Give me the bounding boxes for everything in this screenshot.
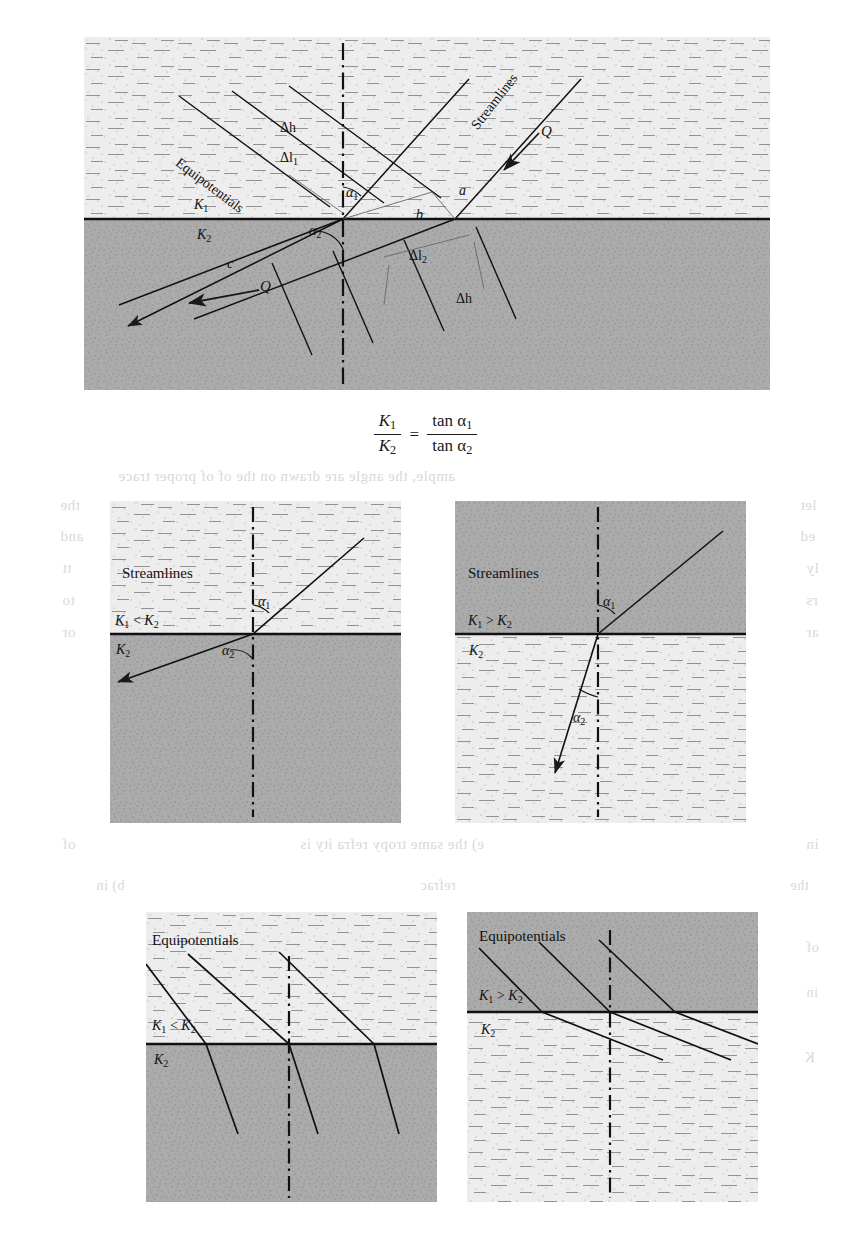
label-segment-c: c bbox=[227, 256, 233, 272]
panel-streamlines-k1-gt-k2: Streamlines K1 > K2 K2 α1 α2 bbox=[455, 501, 746, 823]
label-delta-l2: Δl2 bbox=[409, 248, 427, 265]
label-alpha2-main: α2 bbox=[309, 223, 321, 240]
figure-page: ample, the angle are drawn on the of of … bbox=[0, 0, 851, 1254]
panel-a-alpha1: α1 bbox=[258, 594, 270, 611]
bleed-through-text: ly bbox=[806, 560, 819, 577]
bleed-through-text: and bbox=[60, 528, 83, 545]
panel-c-condition: K1 < K2 bbox=[152, 1018, 196, 1035]
panel-c-k2-label: K2 bbox=[154, 1052, 168, 1069]
panel-equipotentials-k1-gt-k2: Equipotentials K1 > K2 K2 bbox=[467, 912, 758, 1202]
panel-b-title: Streamlines bbox=[468, 565, 539, 582]
panel-d-k2-label: K2 bbox=[481, 1022, 495, 1039]
panel-b-condition: K1 > K2 bbox=[468, 613, 512, 630]
label-delta-h-lower: Δh bbox=[456, 291, 472, 307]
bleed-through-text: in bbox=[806, 985, 818, 1001]
formula-equals-sign: = bbox=[405, 425, 423, 445]
label-q-upper: Q bbox=[541, 123, 552, 140]
panel-b-alpha2: α2 bbox=[573, 710, 585, 727]
bleed-through-text: ample, the angle are drawn on the of of … bbox=[118, 468, 455, 485]
bleed-through-text: refrac bbox=[420, 878, 456, 894]
main-refraction-diagram: Streamlines Equipotentials Q Q K1 K2 α1 … bbox=[84, 37, 770, 390]
label-delta-h-upper: Δh bbox=[280, 120, 296, 136]
bleed-through-text: in bbox=[806, 836, 819, 853]
label-delta-l1: Δl1 bbox=[280, 150, 298, 167]
label-q-lower: Q bbox=[260, 278, 271, 295]
panel-equipotentials-k1-lt-k2: Equipotentials K1 < K2 K2 bbox=[146, 912, 437, 1202]
bleed-through-text: of bbox=[806, 940, 819, 956]
formula-left-fraction: K1 K2 bbox=[374, 410, 401, 459]
panel-a-alpha2: α2 bbox=[222, 643, 234, 660]
bleed-through-text: tt bbox=[62, 560, 71, 577]
panel-d-title: Equipotentials bbox=[479, 928, 566, 945]
panel-streamlines-k1-lt-k2: Streamlines K1 < K2 K2 α1 α2 bbox=[110, 501, 401, 823]
bleed-through-text: rs bbox=[806, 592, 818, 609]
bleed-through-text: let bbox=[800, 497, 817, 514]
bleed-through-text: the bbox=[790, 878, 809, 894]
formula-right-fraction: tan α1 tan α2 bbox=[427, 410, 477, 459]
bleed-through-text: e) the same tropy refra ity is bbox=[300, 836, 484, 853]
panel-d-condition: K1 > K2 bbox=[479, 988, 523, 1005]
bleed-through-text: ed bbox=[800, 528, 815, 545]
panel-a-condition: K1 < K2 bbox=[115, 613, 159, 630]
bleed-through-text: to bbox=[62, 592, 75, 609]
label-k1-main: K1 bbox=[194, 197, 208, 214]
bleed-through-text: or bbox=[62, 624, 76, 641]
bleed-through-text: ar bbox=[806, 624, 819, 641]
bleed-through-text: the bbox=[60, 497, 80, 514]
label-k2-main: K2 bbox=[197, 227, 211, 244]
bleed-through-text: of bbox=[62, 836, 76, 853]
panel-c-title: Equipotentials bbox=[152, 932, 239, 949]
panel-b-k2-label: K2 bbox=[469, 643, 483, 660]
label-alpha1-main: α1 bbox=[346, 185, 358, 202]
label-segment-a: a bbox=[459, 183, 466, 199]
panel-b-alpha1: α1 bbox=[603, 594, 615, 611]
panel-a-title: Streamlines bbox=[122, 565, 193, 582]
bleed-through-text: b) in bbox=[96, 878, 125, 894]
label-segment-b: b bbox=[416, 207, 423, 223]
bleed-through-text: K bbox=[804, 1050, 815, 1066]
panel-a-k2-label: K2 bbox=[116, 642, 130, 659]
refraction-law-formula: K1 K2 = tan α1 tan α2 bbox=[0, 410, 851, 459]
